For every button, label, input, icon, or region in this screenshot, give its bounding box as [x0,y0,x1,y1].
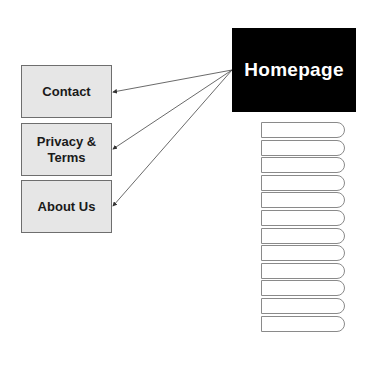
privacy-terms-page-box[interactable]: Privacy & Terms [21,123,112,176]
stack-tab [261,228,345,244]
about-us-page-box[interactable]: About Us [21,180,112,233]
stack-tab [261,263,345,279]
arrow-to-contact [113,70,232,92]
stack-tab [261,157,345,173]
homepage-box[interactable]: Homepage [232,28,356,112]
stack-tab [261,245,345,261]
contact-page-box[interactable]: Contact [21,65,112,118]
stack-tab [261,280,345,296]
about-us-label: About Us [38,199,96,215]
arrow-to-privacy [113,70,232,149]
stack-tab [261,192,345,208]
stack-tab [261,210,345,226]
arrow-to-about [113,70,232,206]
stack-tab [261,316,345,332]
stack-tab [261,140,345,156]
contact-label: Contact [42,84,90,100]
privacy-terms-label: Privacy & Terms [32,134,102,166]
homepage-label: Homepage [244,59,344,81]
stack-tab [261,175,345,191]
stack-tab [261,122,345,138]
stack-tab [261,298,345,314]
